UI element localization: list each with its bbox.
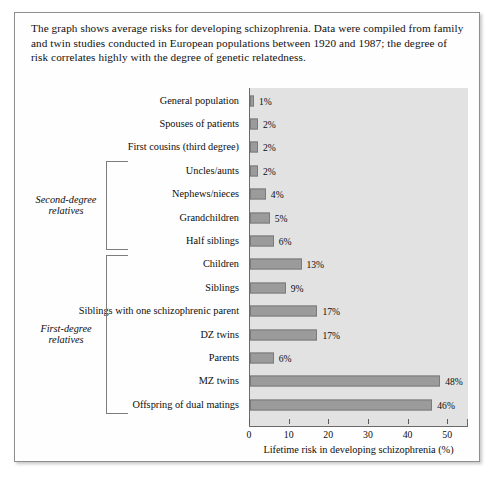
category-label: General population	[35, 95, 239, 106]
axis-tick	[447, 419, 448, 424]
bar-group: 13%	[250, 259, 324, 270]
axis-tick	[328, 419, 329, 424]
chart-row: Children13%	[15, 254, 481, 275]
chart-row: Offspring of dual matings46%	[15, 394, 481, 415]
bar-value-label: 6%	[279, 235, 292, 246]
category-label: Offspring of dual matings	[35, 399, 239, 410]
figure-frame: The graph shows average risks for develo…	[14, 12, 480, 462]
bar-value-label: 5%	[275, 212, 288, 223]
bar-value-label: 6%	[279, 352, 292, 363]
bar	[250, 399, 432, 410]
group-label: First-degree relatives	[29, 323, 103, 346]
axis-tick-label: 30	[363, 429, 373, 440]
chart-row: MZ twins48%	[15, 371, 481, 392]
axis-tick	[408, 419, 409, 424]
bar	[250, 235, 274, 246]
x-axis-label: Lifetime risk in developing schizophreni…	[249, 444, 468, 455]
chart-row: First cousins (third degree)2%	[15, 137, 481, 158]
axis-tick	[289, 419, 290, 424]
chart-row: Spouses of patients2%	[15, 113, 481, 134]
bar-group: 2%	[250, 118, 276, 129]
bar-group: 6%	[250, 352, 292, 363]
category-label: First cousins (third degree)	[35, 142, 239, 153]
category-label: Siblings with one schizophrenic parent	[35, 306, 239, 317]
bar	[250, 212, 270, 223]
bar	[250, 95, 254, 106]
bar-group: 9%	[250, 282, 303, 293]
category-label: Uncles/aunts	[35, 165, 239, 176]
bar	[250, 376, 440, 387]
bar-value-label: 2%	[263, 118, 276, 129]
bar-chart: General population1%Spouses of patients2…	[15, 81, 481, 463]
bar-value-label: 13%	[307, 259, 325, 270]
bar-value-label: 46%	[437, 399, 455, 410]
bar-value-label: 1%	[259, 95, 272, 106]
bar-value-label: 48%	[445, 376, 463, 387]
bar-value-label: 17%	[322, 306, 340, 317]
bar-group: 4%	[250, 189, 284, 200]
bar-group: 1%	[250, 95, 272, 106]
category-label: MZ twins	[35, 376, 239, 387]
axis-tick-label: 20	[323, 429, 333, 440]
bar-group: 2%	[250, 165, 276, 176]
chart-row: Siblings with one schizophrenic parent17…	[15, 301, 481, 322]
axis-frame	[249, 419, 468, 427]
axis-tick-label: 40	[403, 429, 413, 440]
bar-group: 17%	[250, 329, 340, 340]
category-label: Spouses of patients	[35, 118, 239, 129]
axis-tick-label: 0	[247, 429, 252, 440]
bar-group: 5%	[250, 212, 288, 223]
bar	[250, 142, 258, 153]
bar	[250, 306, 317, 317]
bar	[250, 352, 274, 363]
chart-row: General population1%	[15, 90, 481, 111]
axis-tick	[368, 419, 369, 424]
axis-tick	[249, 419, 250, 424]
bar-value-label: 2%	[263, 142, 276, 153]
bar-value-label: 2%	[263, 165, 276, 176]
category-label: Children	[35, 259, 239, 270]
axis-tick-label: 50	[442, 429, 452, 440]
group-bracket	[106, 161, 128, 250]
category-label: Siblings	[35, 282, 239, 293]
bar	[250, 282, 286, 293]
bar-group: 46%	[250, 399, 455, 410]
bar-group: 2%	[250, 142, 276, 153]
bar	[250, 329, 317, 340]
bar	[250, 118, 258, 129]
chart-row: Siblings9%	[15, 277, 481, 298]
bar-value-label: 9%	[291, 282, 304, 293]
bar	[250, 165, 258, 176]
bar-value-label: 17%	[322, 329, 340, 340]
group-bracket	[106, 255, 128, 414]
chart-row: Uncles/aunts2%	[15, 160, 481, 181]
category-label: Parents	[35, 352, 239, 363]
bar-value-label: 4%	[271, 189, 284, 200]
bar-group: 17%	[250, 306, 340, 317]
category-label: Half siblings	[35, 235, 239, 246]
axis-tick-label: 10	[284, 429, 294, 440]
figure-caption: The graph shows average risks for develo…	[31, 21, 465, 65]
bar-group: 6%	[250, 235, 292, 246]
chart-row: Parents6%	[15, 347, 481, 368]
group-label: Second-degree relatives	[29, 194, 103, 217]
chart-row: Half siblings6%	[15, 230, 481, 251]
bar-group: 48%	[250, 376, 463, 387]
bar	[250, 259, 302, 270]
bar	[250, 189, 266, 200]
